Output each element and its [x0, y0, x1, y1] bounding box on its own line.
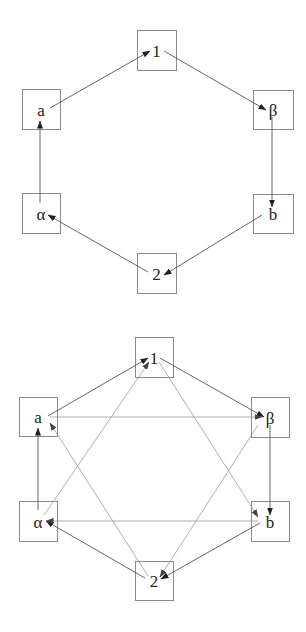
node-label-b: b: [269, 205, 278, 224]
node-label-1: 1: [152, 42, 161, 61]
hexagon-graph-diagrams: 1aβαb2 1aβαb2: [0, 0, 306, 632]
node-label-alpha: α: [34, 513, 43, 532]
node-label-2: 2: [152, 265, 161, 284]
edge-b-to-2: [164, 215, 262, 275]
edge-a-to-1: [48, 358, 148, 416]
edge-a-to-1: [50, 51, 150, 108]
node-label-b: b: [266, 513, 275, 532]
edge-beta-to-2: [160, 425, 258, 577]
edge-2-to-alpha: [48, 215, 148, 272]
edge-b-to-2: [161, 523, 260, 579]
node-label-beta: β: [269, 101, 278, 120]
top-cycle-diagram: 1aβαb2: [23, 31, 294, 294]
edge-2-to-a: [50, 423, 148, 576]
node-label-a: a: [34, 408, 42, 427]
node-label-a: a: [37, 101, 45, 120]
edge-1-to-beta: [164, 51, 266, 110]
bottom-complete-diagram: 1aβαb2: [20, 338, 290, 601]
node-label-beta: β: [266, 409, 275, 428]
node-label-1: 1: [150, 349, 159, 368]
node-label-2: 2: [150, 572, 159, 591]
edge-2-to-alpha: [46, 521, 145, 578]
node-label-alpha: α: [37, 205, 46, 224]
